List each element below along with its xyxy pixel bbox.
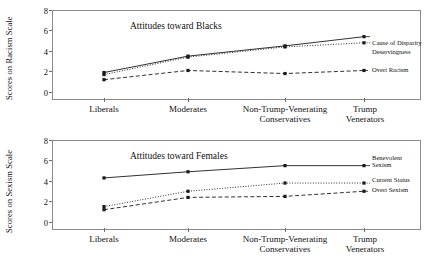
legend-deservingness: Deservingness xyxy=(372,48,410,55)
legend-label-overt-racism: Overt Racism xyxy=(372,66,408,73)
data-point-benevolent-sexism-1 xyxy=(186,170,189,173)
series-plot-racism xyxy=(0,0,428,134)
legend-label-deservingness: Deservingness xyxy=(372,48,410,55)
series-line-benevolent-sexism xyxy=(104,166,364,178)
series-line-overt-sexism xyxy=(104,191,364,209)
legend-label-cause-of-disparity: Cause of Disparity xyxy=(372,39,421,46)
data-point-overt-racism-1 xyxy=(186,69,189,72)
data-point-current-status-2 xyxy=(283,181,286,184)
data-point-current-status-1 xyxy=(186,190,189,193)
data-point-deservingness-2 xyxy=(283,45,286,48)
legend-label-overt-sexism: Overt Sexism xyxy=(372,186,408,193)
series-line-deservingness xyxy=(104,43,364,75)
series-line-current-status xyxy=(104,183,364,207)
data-point-benevolent-sexism-0 xyxy=(102,176,105,179)
legend-current-status: Current Status xyxy=(372,176,410,183)
legend-benevolent-sexism: Benevolent Sexism xyxy=(372,154,402,169)
data-point-overt-sexism-1 xyxy=(186,196,189,199)
data-point-deservingness-1 xyxy=(186,56,189,59)
data-point-overt-sexism-2 xyxy=(283,195,286,198)
legend-label-benevolent-sexism-line1: Benevolent xyxy=(372,154,402,161)
legend-label-benevolent-sexism-line2: Sexism xyxy=(372,161,402,168)
series-line-cause-of-disparity xyxy=(104,37,364,73)
legend-label-current-status: Current Status xyxy=(372,176,410,183)
data-point-overt-racism-2 xyxy=(283,72,286,75)
series-plot-sexism xyxy=(0,135,428,269)
figure-two-panel-line-chart: Scores on Racism Scale Attitudes toward … xyxy=(0,0,428,269)
data-point-deservingness-0 xyxy=(102,73,105,76)
legend-cause-of-disparity: Cause of Disparity xyxy=(372,39,421,46)
data-point-overt-sexism-0 xyxy=(102,208,105,211)
panel-attitudes-toward-blacks: Scores on Racism Scale Attitudes toward … xyxy=(0,0,428,134)
data-point-overt-racism-0 xyxy=(102,78,105,81)
legend-overt-racism: Overt Racism xyxy=(372,66,408,73)
panel-attitudes-toward-females: Scores on Sexism Scale Attitudes toward … xyxy=(0,135,428,269)
data-point-benevolent-sexism-2 xyxy=(283,164,286,167)
legend-overt-sexism: Overt Sexism xyxy=(372,186,408,193)
series-line-overt-racism xyxy=(104,70,364,79)
data-point-current-status-0 xyxy=(102,205,105,208)
